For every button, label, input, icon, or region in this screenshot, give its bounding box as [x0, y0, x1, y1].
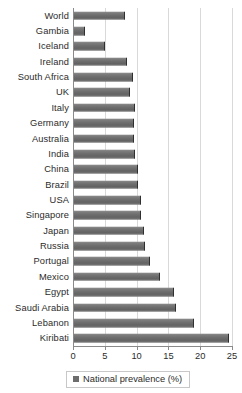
bar-row: Egypt — [73, 285, 232, 300]
x-tick-label: 10 — [131, 351, 141, 361]
x-tick-label: 20 — [195, 351, 205, 361]
category-label: World — [44, 11, 69, 21]
bar — [74, 11, 125, 20]
bar — [74, 42, 105, 51]
bar-row: South Africa — [73, 69, 232, 84]
bar-row: Germany — [73, 116, 232, 131]
bar — [74, 242, 145, 251]
category-label: Germany — [30, 118, 69, 128]
bar — [74, 57, 127, 66]
legend-label: National prevalence (%) — [83, 374, 182, 384]
bar-chart: WorldGambiaIcelandIrelandSouth AfricaUKI… — [0, 0, 242, 393]
x-tick-label: 0 — [70, 351, 75, 361]
bar — [74, 134, 134, 143]
x-tick — [168, 346, 169, 350]
category-label: Egypt — [45, 287, 69, 297]
bar-row: Japan — [73, 223, 232, 238]
bar — [74, 226, 144, 235]
bar — [74, 211, 141, 220]
bar-row: Mexico — [73, 269, 232, 284]
bar-rows: WorldGambiaIcelandIrelandSouth AfricaUKI… — [73, 8, 232, 346]
x-tick-label: 25 — [227, 351, 237, 361]
category-label: UK — [56, 87, 69, 97]
bar-row: Russia — [73, 238, 232, 253]
bar-row: Gambia — [73, 23, 232, 38]
category-label: Brazil — [45, 180, 69, 190]
category-label: Italy — [51, 103, 69, 113]
category-label: USA — [50, 195, 69, 205]
bar-row: Brazil — [73, 177, 232, 192]
bar — [74, 303, 176, 312]
category-label: Australia — [32, 134, 69, 144]
bar-row: USA — [73, 192, 232, 207]
category-label: Saudi Arabia — [15, 303, 69, 313]
bar — [74, 273, 160, 282]
category-label: Iceland — [38, 41, 69, 51]
x-tick — [200, 346, 201, 350]
chart-legend: National prevalence (%) — [66, 371, 190, 388]
category-label: Gambia — [36, 26, 69, 36]
category-label: Singapore — [26, 210, 69, 220]
category-label: Ireland — [40, 57, 69, 67]
x-tick — [73, 346, 74, 350]
category-label: Russia — [40, 241, 69, 251]
category-label: China — [44, 164, 69, 174]
bar — [74, 257, 150, 266]
bar-row: Portugal — [73, 254, 232, 269]
category-label: South Africa — [18, 72, 69, 82]
bar-row: Saudi Arabia — [73, 300, 232, 315]
bar-row: India — [73, 146, 232, 161]
bar-row: Singapore — [73, 208, 232, 223]
bar-row: UK — [73, 85, 232, 100]
bar-row: China — [73, 162, 232, 177]
bar-row: World — [73, 8, 232, 23]
category-label: Mexico — [39, 272, 69, 282]
category-label: Japan — [43, 226, 69, 236]
bar-row: Australia — [73, 131, 232, 146]
legend-swatch-icon — [73, 376, 79, 382]
gridline-25 — [232, 8, 233, 346]
bar — [74, 104, 135, 113]
category-label: Lebanon — [32, 318, 69, 328]
x-tick — [105, 346, 106, 350]
plot-area: WorldGambiaIcelandIrelandSouth AfricaUKI… — [73, 8, 232, 346]
category-label: Kiribati — [40, 333, 69, 343]
bar — [74, 150, 135, 159]
bar — [74, 165, 138, 174]
bar-row: Kiribati — [73, 331, 232, 346]
category-label: Portugal — [34, 256, 69, 266]
bar — [74, 27, 85, 36]
bar-row: Ireland — [73, 54, 232, 69]
bar-row: Lebanon — [73, 315, 232, 330]
bar — [74, 180, 138, 189]
category-label: India — [48, 149, 69, 159]
bar — [74, 88, 130, 97]
bar — [74, 334, 229, 343]
x-tick — [137, 346, 138, 350]
bar-row: Iceland — [73, 39, 232, 54]
bar — [74, 119, 134, 128]
bar-row: Italy — [73, 100, 232, 115]
x-tick — [232, 346, 233, 350]
x-tick-label: 5 — [102, 351, 107, 361]
bar — [74, 319, 194, 328]
bar — [74, 73, 133, 82]
x-axis-tick-labels: 0510152025 — [73, 351, 232, 365]
bar — [74, 196, 141, 205]
x-tick-label: 15 — [163, 351, 173, 361]
bar — [74, 288, 174, 297]
